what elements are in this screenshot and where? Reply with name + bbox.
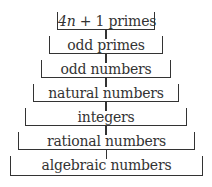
set-label: algebraic numbers <box>11 157 202 173</box>
set-label: natural numbers <box>34 85 178 101</box>
set-level-1: 4n + 1 primes <box>57 12 155 30</box>
set-label: rational numbers <box>19 133 194 149</box>
set-label: 4n + 1 primes <box>58 13 154 29</box>
set-level-2: odd primes <box>49 36 163 54</box>
set-label: odd primes <box>50 37 162 53</box>
set-level-5: integers <box>25 108 187 126</box>
set-label: integers <box>26 109 186 125</box>
set-level-3: odd numbers <box>41 60 171 78</box>
set-level-6: rational numbers <box>18 132 195 150</box>
set-level-4: natural numbers <box>33 84 179 102</box>
set-label: odd numbers <box>42 61 170 77</box>
set-level-7: algebraic numbers <box>10 156 203 176</box>
